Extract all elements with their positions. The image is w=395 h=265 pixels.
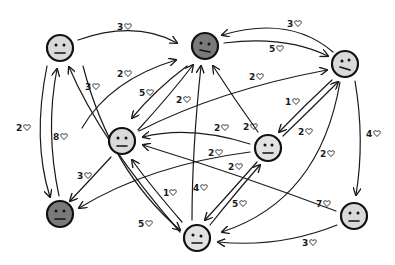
svg-text:2: 2 <box>214 123 220 133</box>
edge-label-E-D: 2 <box>214 123 228 133</box>
face-icon <box>184 225 210 251</box>
heart-icon <box>93 84 99 90</box>
edge-G-B <box>192 66 201 220</box>
face-icon <box>109 128 135 154</box>
edge-H-D <box>143 145 336 211</box>
heart-icon <box>61 134 67 140</box>
edge-B-C <box>224 41 328 56</box>
heart-icon <box>374 131 380 137</box>
edge-label-F-A: 8 <box>53 132 67 142</box>
heart-icon <box>277 46 283 52</box>
edge-label-G-A: 3 <box>85 82 99 92</box>
svg-text:8: 8 <box>53 132 59 142</box>
face-node-E <box>255 135 281 161</box>
face-node-B <box>192 33 218 59</box>
heart-icon <box>324 201 330 207</box>
face-icon <box>255 135 281 161</box>
edge-label-G-B: 4 <box>193 183 207 193</box>
edge-label-D-B-1: 2 <box>117 69 131 79</box>
edge-label-G-D: 1 <box>163 188 176 198</box>
svg-text:2: 2 <box>228 162 234 172</box>
face-icon <box>47 35 73 61</box>
face-node-F <box>47 201 73 227</box>
edge-label-C-G: 2 <box>320 149 334 159</box>
svg-text:3: 3 <box>77 171 83 181</box>
heart-icon <box>125 24 131 30</box>
svg-text:4: 4 <box>366 129 372 139</box>
svg-text:3: 3 <box>302 238 308 248</box>
heart-icon <box>216 150 222 156</box>
edges-layer <box>40 28 360 243</box>
edge-E-D <box>143 132 250 144</box>
heart-icon <box>147 90 153 96</box>
svg-text:5: 5 <box>139 88 145 98</box>
svg-text:2: 2 <box>243 122 249 132</box>
heart-icon <box>310 240 316 246</box>
edge-A-B <box>78 31 177 43</box>
svg-text:2: 2 <box>298 127 304 137</box>
edge-G-E <box>210 165 260 225</box>
heart-icon <box>125 71 131 77</box>
face-icon <box>341 203 367 229</box>
face-node-H <box>341 203 367 229</box>
heart-icon <box>222 125 228 131</box>
face-node-G <box>184 225 210 251</box>
edge-D-B-1 <box>82 60 176 128</box>
heart-icon <box>293 99 299 105</box>
edge-A-F <box>40 66 50 197</box>
face-icon <box>332 51 358 77</box>
edge-E-C <box>283 82 338 136</box>
svg-text:2: 2 <box>176 95 182 105</box>
heart-icon <box>240 201 246 207</box>
face-node-C <box>332 51 358 77</box>
edge-label-A-F: 2 <box>16 123 30 133</box>
edge-label-B-C: 5 <box>269 44 283 54</box>
edge-G-D <box>132 160 182 222</box>
heart-icon <box>306 129 312 135</box>
edge-label-D-F: 3 <box>77 171 91 181</box>
svg-text:3: 3 <box>85 82 91 92</box>
edge-label-E-C: 2 <box>298 127 312 137</box>
svg-text:5: 5 <box>232 199 238 209</box>
svg-text:1: 1 <box>163 188 169 198</box>
heart-icon <box>201 185 207 191</box>
face-node-D <box>109 128 135 154</box>
edge-D-B-2 <box>138 65 193 130</box>
edge-label-C-E: 1 <box>285 97 299 107</box>
edge-label-G-E: 5 <box>232 199 246 209</box>
edge-label-C-H: 4 <box>366 129 380 139</box>
svg-text:4: 4 <box>193 183 199 193</box>
heart-icon <box>146 221 152 227</box>
heart-icon <box>85 173 91 179</box>
edge-label-A-G: 5 <box>138 219 152 229</box>
heart-icon <box>236 164 242 170</box>
svg-text:5: 5 <box>138 219 144 229</box>
edge-label-C-B: 3 <box>287 19 301 29</box>
svg-text:2: 2 <box>208 148 214 158</box>
heart-icon <box>170 190 176 196</box>
heart-icon <box>295 21 301 27</box>
face-icon <box>192 33 218 59</box>
svg-text:1: 1 <box>285 97 291 107</box>
svg-text:7: 7 <box>316 199 322 209</box>
heart-icon <box>257 74 263 80</box>
heart-icon <box>24 125 30 131</box>
edge-C-H <box>355 81 360 195</box>
edge-label-H-G: 3 <box>302 238 316 248</box>
edge-label-D-C: 2 <box>249 72 263 82</box>
graph-canvas: 3 3 5 2 5 2 2 3 2 8 3 2 1 2 2 2 7 2 5 1 … <box>0 0 395 265</box>
heart-icon <box>328 151 334 157</box>
heart-icon <box>184 97 190 103</box>
svg-text:2: 2 <box>117 69 123 79</box>
edge-H-G <box>218 225 337 243</box>
svg-text:5: 5 <box>269 44 275 54</box>
edge-label-E-G: 2 <box>228 162 242 172</box>
svg-text:2: 2 <box>249 72 255 82</box>
edge-label-D-B-2: 2 <box>176 95 190 105</box>
svg-text:2: 2 <box>320 149 326 159</box>
face-icon <box>47 201 73 227</box>
svg-text:3: 3 <box>117 22 123 32</box>
svg-text:3: 3 <box>287 19 293 29</box>
svg-text:2: 2 <box>16 123 22 133</box>
face-node-A <box>47 35 73 61</box>
